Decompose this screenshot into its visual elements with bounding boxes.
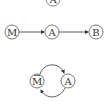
top-node-a: A (46, 0, 60, 6)
chain-node-b: B (89, 25, 103, 39)
chain-node-a: A (45, 25, 59, 39)
edge-cycle-a-to-m (41, 88, 65, 97)
chain-node-a-label: A (47, 27, 56, 38)
cycle-node-a: A (61, 74, 75, 88)
cycle-node-m: M (30, 74, 44, 88)
chain-node-m-label: M (7, 27, 17, 38)
cycle-node-m-label: M (32, 76, 42, 87)
cycle-node-a-label: A (63, 76, 72, 87)
diagram-canvas: A M A B M A (0, 0, 107, 106)
chain-node-m: M (5, 25, 19, 39)
chain-node-b-label: B (92, 27, 99, 38)
top-node-label: A (48, 0, 57, 5)
edge-cycle-m-to-a (40, 65, 64, 74)
